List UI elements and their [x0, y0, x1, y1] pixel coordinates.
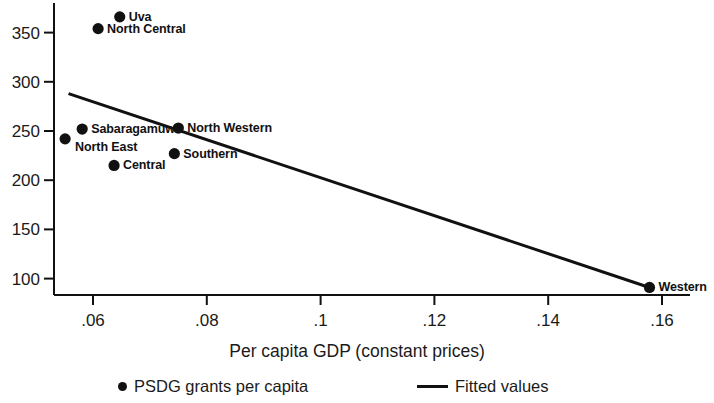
data-point-marker: [169, 148, 180, 159]
axes: [54, 3, 690, 295]
x-tick-label: .16: [637, 312, 687, 329]
data-points: [60, 11, 656, 293]
x-tick-label: .1: [296, 312, 346, 329]
y-tick-label: 350: [0, 25, 40, 42]
y-tick-label: 100: [0, 271, 40, 288]
data-point-marker: [93, 23, 104, 34]
legend-line-marker-icon: [417, 385, 448, 388]
data-point-marker: [644, 282, 655, 293]
data-point-label: Southern: [183, 148, 237, 161]
x-tick-label: .06: [68, 312, 118, 329]
x-axis-title: Per capita GDP (constant prices): [0, 341, 714, 362]
y-tick-label: 300: [0, 74, 40, 91]
data-point-label: North Western: [187, 122, 272, 135]
data-point-marker: [114, 11, 125, 22]
y-axis-tick-marks: [44, 33, 54, 279]
data-point-marker: [108, 160, 119, 171]
legend-item-fitted-values: Fitted values: [417, 374, 549, 398]
x-tick-label: .14: [523, 312, 573, 329]
chart-legend: PSDG grants per capita Fitted values: [0, 374, 714, 398]
y-tick-label: 200: [0, 172, 40, 189]
x-axis-tick-marks: [93, 295, 662, 305]
data-point-label: Western: [658, 281, 706, 294]
scatter-chart-figure: 100150200250300350 .06.08.1.12.14.16 Uva…: [0, 0, 714, 403]
legend-label-fitted-values: Fitted values: [455, 377, 549, 396]
legend-dot-marker-icon: [118, 382, 127, 391]
y-tick-label: 150: [0, 221, 40, 238]
data-point-label: Sabaragamuwa: [91, 123, 182, 136]
data-point-label: Central: [123, 159, 165, 172]
legend-label-psdg-grants: PSDG grants per capita: [134, 377, 308, 396]
data-point-marker: [77, 123, 88, 134]
x-tick-label: .08: [182, 312, 232, 329]
legend-item-psdg-grants: PSDG grants per capita: [118, 374, 308, 398]
data-point-label: North Central: [107, 23, 186, 36]
x-tick-label: .12: [409, 312, 459, 329]
data-point-label: North East: [75, 141, 137, 154]
data-point-marker: [60, 133, 71, 144]
y-tick-label: 250: [0, 123, 40, 140]
